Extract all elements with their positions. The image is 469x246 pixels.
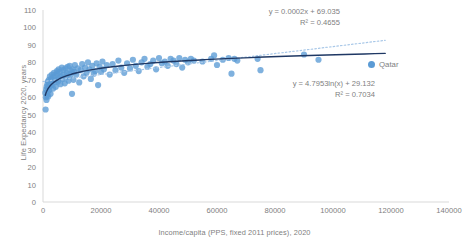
data-point xyxy=(228,71,234,77)
y-tick-label: 20 xyxy=(10,163,36,172)
linear-r2-text: R² = 0.4655 xyxy=(180,17,340,28)
data-point xyxy=(301,51,307,57)
x-tick-label: 140000 xyxy=(436,206,461,215)
y-tick-label: 110 xyxy=(10,6,36,15)
y-tick-label: 60 xyxy=(10,93,36,102)
data-point xyxy=(76,79,82,85)
x-tick-label: 20000 xyxy=(90,206,111,215)
data-point xyxy=(257,67,263,73)
data-point xyxy=(136,68,142,74)
data-point xyxy=(107,71,113,77)
chart-legend[interactable]: Qatar xyxy=(368,60,399,69)
x-tick-label: 40000 xyxy=(148,206,169,215)
x-tick-label: 60000 xyxy=(206,206,227,215)
data-point xyxy=(315,57,321,63)
data-point xyxy=(69,91,75,97)
data-point xyxy=(141,56,147,62)
x-axis-tick-labels: 020000400006000080000100000120000140000 xyxy=(0,206,469,222)
plot-area xyxy=(43,10,449,202)
x-tick-label: 0 xyxy=(41,206,45,215)
legend-marker-icon xyxy=(368,61,375,68)
y-tick-label: 10 xyxy=(10,180,36,189)
y-tick-label: 100 xyxy=(10,23,36,32)
y-tick-label: 50 xyxy=(10,110,36,119)
y-tick-label: 30 xyxy=(10,145,36,154)
data-point xyxy=(214,62,220,68)
data-point xyxy=(156,55,162,61)
log-equation-text: y = 4.7953ln(x) + 29.132 xyxy=(200,78,375,89)
linear-equation-annotation: y = 0.0002x + 69.035 R² = 0.4655 xyxy=(180,6,340,28)
linear-equation-text: y = 0.0002x + 69.035 xyxy=(180,6,340,17)
data-point xyxy=(176,55,182,61)
x-tick-label: 80000 xyxy=(264,206,285,215)
y-tick-label: 90 xyxy=(10,40,36,49)
data-point xyxy=(115,58,121,64)
data-point xyxy=(165,63,171,69)
x-tick-label: 100000 xyxy=(320,206,345,215)
scatter-chart: Life Expectancy 2020, years 010203040506… xyxy=(0,0,469,246)
legend-label: Qatar xyxy=(379,60,399,69)
data-point xyxy=(130,57,136,63)
data-point xyxy=(211,52,217,58)
data-point xyxy=(88,76,94,82)
data-point xyxy=(43,106,49,112)
y-tick-label: 70 xyxy=(10,75,36,84)
log-equation-annotation: y = 4.7953ln(x) + 29.132 R² = 0.7034 xyxy=(200,78,375,100)
linear-trendline xyxy=(43,40,385,81)
plot-canvas xyxy=(43,10,449,202)
log-r2-text: R² = 0.7034 xyxy=(200,89,375,100)
x-tick-label: 120000 xyxy=(378,206,403,215)
x-axis-title: Income/capita (PPS, fixed 2011 prices), … xyxy=(0,228,469,237)
y-tick-label: 40 xyxy=(10,128,36,137)
data-point xyxy=(121,70,127,76)
y-tick-label: 80 xyxy=(10,58,36,67)
data-point xyxy=(95,82,101,88)
